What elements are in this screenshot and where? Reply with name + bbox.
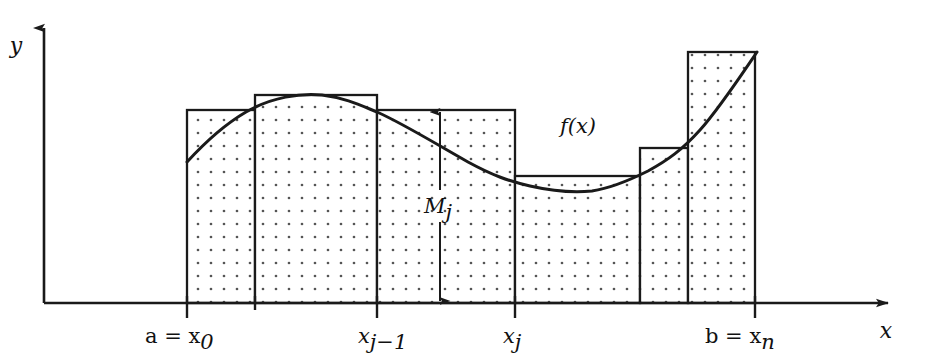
riemann-sum-diagram: y x f(x) Mj a = x0 xj−1 xj b = xn xyxy=(0,0,927,360)
tick-label-xj-minus-1: xj−1 xyxy=(358,324,407,354)
bar-rect-2 xyxy=(255,95,377,303)
tick-label-xj: xj xyxy=(503,324,522,354)
curve-label-fx: f(x) xyxy=(558,114,596,138)
x-axis-label: x xyxy=(880,318,893,343)
tick-label-b-sub: n xyxy=(761,330,775,354)
tick-label-xj-base: x xyxy=(503,324,515,348)
tick-label-b: b = xn xyxy=(705,324,775,354)
tick-label-xjm1-sub: j−1 xyxy=(366,330,407,354)
rectangle-bars-group xyxy=(187,52,755,303)
tick-label-a-text: a = x xyxy=(145,324,200,348)
tick-label-b-text: b = x xyxy=(705,324,761,348)
riemann-figure-container: y x f(x) Mj a = x0 xj−1 xj b = xn xyxy=(0,0,927,360)
tick-label-a-sub: 0 xyxy=(200,330,213,354)
bar-rect-6 xyxy=(688,52,755,303)
bar-rect-1 xyxy=(187,110,255,303)
tick-label-a: a = x0 xyxy=(145,324,214,354)
y-axis-label: y xyxy=(9,33,23,58)
height-label-base: M xyxy=(423,194,446,218)
tick-label-xjm1-base: x xyxy=(358,324,370,348)
bar-rect-4 xyxy=(515,176,640,303)
